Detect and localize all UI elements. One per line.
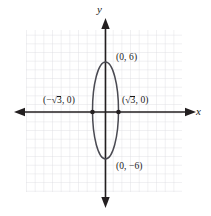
- radical-sign-right: √3: [125, 95, 135, 105]
- radical-overbar-right: [130, 96, 135, 97]
- point-label-right-vertex: (√3, 0): [122, 95, 149, 105]
- point-label-bottom-vertex: (0, −6): [116, 162, 143, 172]
- graph-canvas: [0, 0, 211, 216]
- ellipse-graph-figure: y x (0, 6) (0, −6) (−√3, 0) (√3, 0): [0, 0, 211, 216]
- point-label-left-vertex: (−√3, 0): [43, 95, 75, 105]
- left-vertex-suffix: , 0): [62, 95, 75, 105]
- left-vertex-prefix: (−: [43, 95, 52, 105]
- point-label-top-vertex: (0, 6): [116, 53, 137, 63]
- radical-sign-left: √3: [52, 95, 62, 105]
- radical-overbar-left: [57, 96, 62, 97]
- y-axis-label: y: [97, 4, 102, 15]
- x-axis-label: x: [196, 106, 201, 117]
- grid: [26, 30, 182, 192]
- right-vertex-suffix: , 0): [135, 95, 148, 105]
